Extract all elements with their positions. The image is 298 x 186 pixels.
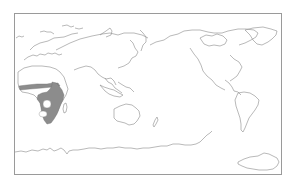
range-gap-congo: [43, 100, 51, 108]
antarctica: [15, 131, 279, 170]
north-america: [150, 27, 277, 95]
world-map: [0, 0, 298, 186]
australia: [114, 104, 140, 125]
africa: [18, 66, 68, 124]
new-zealand: [153, 117, 158, 127]
eurasia-coastline: [16, 25, 148, 93]
madagascar: [63, 103, 67, 113]
south-america: [235, 92, 259, 132]
range-gap-kalahari: [39, 111, 47, 117]
oceania: [100, 85, 158, 127]
